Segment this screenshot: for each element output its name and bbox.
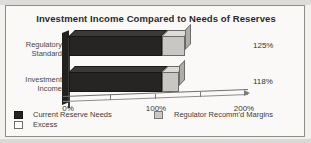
page-edge-bottom bbox=[0, 139, 311, 143]
x-axis-minor-tick-50 bbox=[110, 95, 111, 100]
x-axis-arrow bbox=[244, 90, 250, 96]
legend-label-regulator-margins: Regulator Recomm'd Margins bbox=[174, 110, 273, 119]
scanned-page: Investment Income Compared to Needs of R… bbox=[0, 0, 311, 143]
chart-legend: Current Reserve Needs Excess Regulator R… bbox=[6, 110, 306, 136]
category-label-line1: Investment bbox=[25, 75, 62, 84]
x-axis-minor-tick-150 bbox=[200, 92, 201, 97]
value-label-regulatory-standard: 125% bbox=[253, 41, 273, 50]
category-label-line1: Regulatory bbox=[26, 40, 62, 49]
category-label-regulatory-standard: Regulatory Standard bbox=[10, 40, 62, 58]
legend-label-excess: Excess bbox=[33, 120, 57, 129]
legend-label-current-reserve-needs: Current Reserve Needs bbox=[33, 110, 112, 119]
bar-segment-current-reserve-needs bbox=[69, 36, 162, 56]
chart-card: Investment Income Compared to Needs of R… bbox=[5, 5, 305, 137]
legend-swatch-black-icon bbox=[14, 111, 23, 119]
legend-swatch-white-icon bbox=[14, 121, 23, 129]
chart-title: Investment Income Compared to Needs of R… bbox=[6, 13, 306, 24]
bar-side-face-regulator-margins bbox=[185, 24, 191, 50]
category-label-line2: Standard bbox=[32, 49, 62, 58]
value-label-investment-income: 118% bbox=[253, 77, 273, 86]
legend-swatch-gray-icon bbox=[154, 111, 163, 119]
x-axis-tick-100 bbox=[155, 94, 156, 99]
bar-top-face-current-reserve-needs bbox=[69, 66, 168, 72]
bar-segment-regulator-margins bbox=[162, 36, 185, 56]
x-axis: 0% 100% 200% bbox=[6, 88, 306, 108]
bar-side-face-regulator-margins bbox=[179, 60, 185, 86]
bar-top-face-current-reserve-needs bbox=[69, 30, 168, 36]
